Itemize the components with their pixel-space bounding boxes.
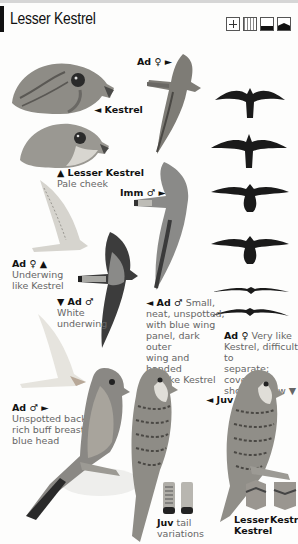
silhouette-3 (211, 180, 289, 214)
flat-ground-icon (260, 17, 274, 31)
reeds-icon (243, 17, 257, 31)
page-title: Lesser Kestrel (10, 9, 96, 29)
lesser-kestrel-head-illustration (18, 120, 110, 170)
habitat-icons (226, 17, 291, 31)
coverts-lesser-kestrel-label: LesserKestrel (234, 514, 272, 536)
coverts-comparison (244, 478, 298, 512)
crosshair-icon (226, 17, 240, 31)
coverts-kestrel-label: Kestrel (270, 514, 298, 525)
top-rule (0, 0, 298, 3)
kestrel-head-label: ◄ Kestrel (94, 104, 143, 115)
silhouette-4 (211, 232, 289, 266)
hill-icon (277, 17, 291, 31)
silhouette-2 (211, 130, 287, 170)
juv-tail-variations (162, 481, 196, 515)
title-marker (0, 6, 4, 32)
silhouette-head-on-1 (213, 284, 289, 296)
silhouette-1 (215, 82, 285, 122)
ad-female-underwing-label: Ad ♀ ▲ Underwing like Kestrel (12, 258, 64, 291)
juv-tail-label: Juv tail variations (157, 517, 204, 539)
ad-female-flight-illustration (143, 52, 218, 157)
field-guide-page: Lesser Kestrel ◄ Kestrel ▲ Lesser Kestre (0, 0, 298, 544)
